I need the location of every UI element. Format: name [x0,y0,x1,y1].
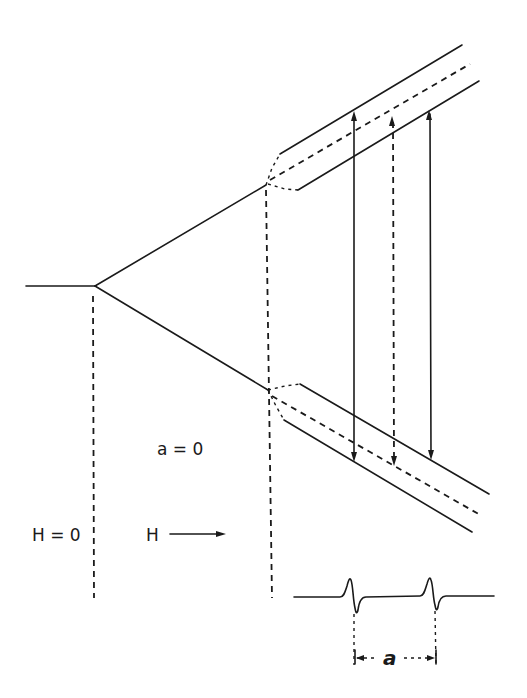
zeeman-lower-level [95,286,268,390]
arrow-down-icon [391,456,397,466]
arrow-up-icon [351,111,357,121]
upper-split-connector-top [266,154,280,185]
upper-split-connector-bottom [268,184,298,190]
transition-line [430,114,431,456]
energy-level-diagram: a = 0 H = 0 H a [0,0,527,698]
transition-line [393,122,394,462]
label-field-axis: H [146,525,159,545]
label-zero-field: H = 0 [32,525,81,545]
lower-split-connector-bottom [268,390,284,420]
hyperfine-onset-marker [266,190,272,598]
arrow-left-icon [356,655,364,661]
label-no-coupling: a = 0 [157,439,203,459]
zero-field-marker [93,296,94,598]
arrow-up-icon [389,116,395,126]
esr-spectrum-trace [294,578,494,613]
transition-reference [389,116,397,466]
upper-reference-level [270,64,470,180]
upper-hyperfine-level-1 [280,45,462,154]
lower-split-connector-top [268,384,300,390]
upper-hyperfine-level-2 [298,81,479,190]
transition-2 [426,110,434,460]
lower-hyperfine-level-2 [284,420,472,532]
transition-1 [351,111,357,462]
zeeman-upper-level [95,185,266,286]
arrow-right-icon [216,531,226,537]
label-coupling-constant: a [383,646,397,670]
hyperfine-spacing-dimension: a [355,646,436,670]
arrow-right-icon [427,655,435,661]
lower-reference-level [272,396,482,516]
